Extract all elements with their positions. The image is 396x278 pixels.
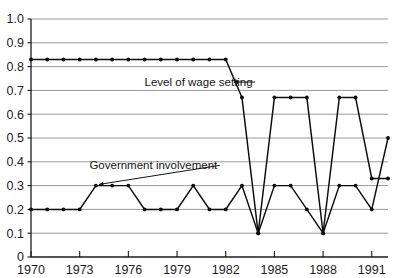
data-point-marker [62,207,66,211]
data-point-marker [110,184,114,188]
data-point-marker [289,96,293,100]
data-point-marker [321,231,325,235]
data-point-marker [126,184,130,188]
data-point-marker [240,96,244,100]
data-point-marker [386,177,390,181]
data-point-marker [159,58,163,62]
data-point-marker [143,207,147,211]
data-point-marker [370,177,374,181]
data-point-marker [143,58,147,62]
data-point-marker [208,58,212,62]
data-point-marker [289,184,293,188]
data-point-marker [305,207,309,211]
series-annotation: Government involvement [89,159,219,185]
x-tick-label: 1988 [309,263,337,277]
data-point-marker [224,207,228,211]
series-annotation: Level of wage setting [145,76,256,88]
data-point-marker [62,58,66,62]
data-point-marker [159,207,163,211]
data-point-marker [175,207,179,211]
x-tick-label: 1991 [358,263,386,277]
data-point-marker [191,184,195,188]
data-point-marker [272,96,276,100]
data-point-marker [256,231,260,235]
y-tick-label: 0.1 [7,227,24,241]
y-tick-label: 0.8 [7,60,24,74]
annotations-group: Level of wage settingGovernment involvem… [89,76,255,186]
data-point-marker [305,96,309,100]
data-point-marker [94,58,98,62]
y-tick-label: 0.9 [7,36,24,50]
data-point-marker [337,184,341,188]
y-tick-label: 0.4 [7,155,24,169]
data-point-marker [110,58,114,62]
data-point-marker [78,58,82,62]
data-point-marker [370,207,374,211]
x-tick-label: 1973 [66,263,94,277]
data-point-marker [29,207,33,211]
data-point-marker [45,207,49,211]
x-tick-label: 1985 [261,263,289,277]
data-point-marker [354,184,358,188]
data-point-marker [29,58,33,62]
x-tick-label: 1982 [212,263,240,277]
data-point-marker [337,96,341,100]
y-tick-label: 0.6 [7,108,24,122]
y-tick-label: 0.3 [7,179,24,193]
chart-container: 00.10.20.30.40.50.60.70.80.91.0 19701973… [0,0,396,278]
x-tick-label: 1970 [17,263,45,277]
y-tick-label: 0.7 [7,84,24,98]
data-point-marker [272,184,276,188]
data-point-marker [191,58,195,62]
line-chart: 00.10.20.30.40.50.60.70.80.91.0 19701973… [0,0,396,278]
y-tick-label: 1.0 [7,12,24,26]
y-tick-label: 0.2 [7,203,24,217]
data-point-marker [45,58,49,62]
data-point-marker [94,184,98,188]
data-point-marker [354,96,358,100]
data-point-marker [224,58,228,62]
data-point-marker [240,184,244,188]
x-tick-label: 1976 [114,263,142,277]
y-tick-label: 0.5 [7,131,24,145]
x-tick-label: 1979 [163,263,191,277]
data-point-marker [386,136,390,140]
data-point-marker [175,58,179,62]
data-point-marker [208,207,212,211]
data-point-marker [78,207,82,211]
x-axis-tick-labels: 19701973197619791982198519881991 [17,263,386,277]
data-point-marker [126,58,130,62]
annotation-label: Government involvement [89,159,218,171]
y-axis-tick-labels: 00.10.20.30.40.50.60.70.80.91.0 [7,12,24,264]
